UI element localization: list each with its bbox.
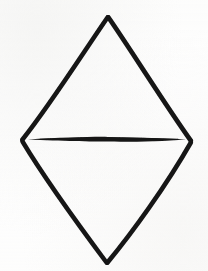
top-vertex-dab	[106, 15, 110, 19]
drawing-canvas	[0, 0, 208, 271]
left-vertex-dab	[20, 138, 24, 142]
bottom-vertex-dab	[105, 261, 109, 265]
paper-background	[0, 0, 208, 271]
rhombus-figure	[0, 0, 208, 271]
right-vertex-dab	[189, 139, 193, 143]
